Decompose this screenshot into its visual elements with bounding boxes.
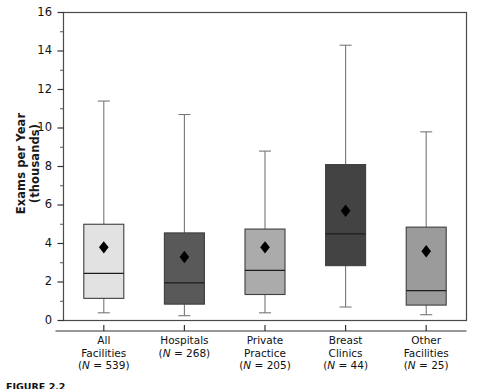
y-axis-tick-label: 10 [26, 122, 52, 133]
box-plot-3 [245, 151, 285, 313]
figure-caption: FIGURE 2.2 [6, 381, 65, 389]
y-axis-tick-label: 4 [26, 238, 52, 249]
box-plot-2 [164, 115, 204, 316]
box-plot-4 [326, 45, 366, 307]
box-plot-figure: Exams per Year (thousands) 0246810121416… [0, 0, 477, 389]
y-axis-tick-label: 12 [26, 84, 52, 95]
y-axis-tick-label: 0 [26, 315, 52, 326]
y-axis-tick-label: 16 [26, 7, 52, 18]
x-axis-tick-label-5: OtherFacilities(N = 25) [376, 334, 476, 372]
box-body [84, 224, 124, 298]
y-axis-tick-label: 14 [26, 45, 52, 56]
box-body [164, 233, 204, 304]
box-body [406, 227, 446, 305]
x-axis-tick-label-line: (N = 539) [54, 359, 154, 372]
box-body [245, 229, 285, 294]
y-axis-tick-label: 2 [26, 276, 52, 287]
box-plot-5 [406, 132, 446, 315]
y-axis-tick-label: 8 [26, 161, 52, 172]
x-axis-tick-label-line: Facilities [376, 347, 476, 360]
y-axis-tick-label: 6 [26, 199, 52, 210]
box-plot-1 [84, 101, 124, 313]
x-axis-tick-label-line: (N = 25) [376, 359, 476, 372]
x-axis-tick-label-line: Other [376, 334, 476, 347]
plot-area [0, 0, 477, 389]
